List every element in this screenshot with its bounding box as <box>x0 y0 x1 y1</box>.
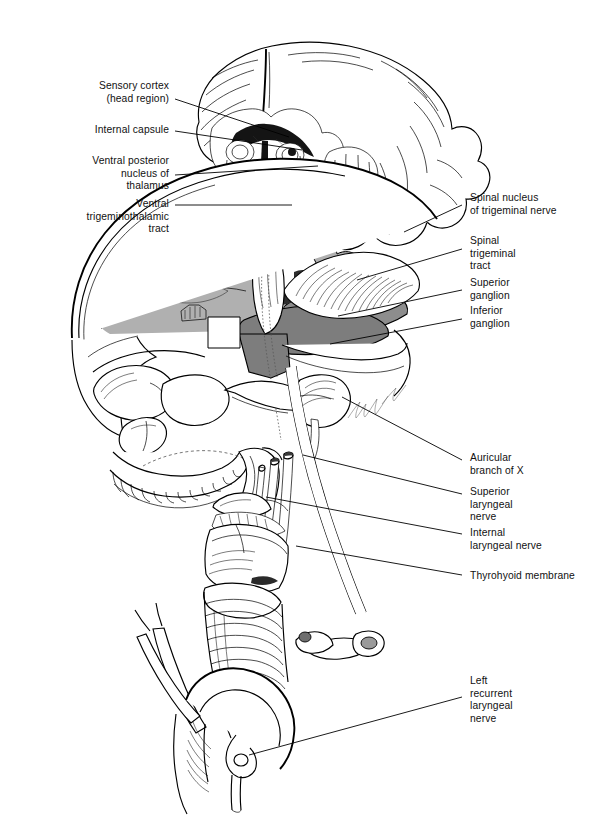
label-internal-capsule: Internal capsule <box>41 124 169 137</box>
occipital-base <box>282 343 407 360</box>
label-auricular-branch-of-x: Auricular branch of X <box>470 452 604 477</box>
recurrent-laryngeal-ascending-2 <box>231 775 232 810</box>
label-thyrohyoid-membrane: Thyrohyoid membrane <box>470 570 606 583</box>
label-spinal-trigeminal-tract: Spinal trigeminal tract <box>470 235 604 273</box>
aorta-descending <box>174 714 187 814</box>
great-vessels-group <box>135 603 384 814</box>
zygomatic-bone <box>161 375 229 426</box>
label-ventral-posterior-nucleus: Ventral posterior nucleus of thalamus <box>41 155 169 193</box>
thalamus-nucleus-left-inner <box>232 145 248 159</box>
vessel-branch-top-1 <box>156 603 162 626</box>
label-ventral-trigeminothalamic: Ventral trigeminothalamic tract <box>21 198 169 236</box>
label-internal-laryngeal-nerve: Internal laryngeal nerve <box>470 527 604 552</box>
ligamentum-arteriosum <box>234 754 248 766</box>
label-sensory-cortex: Sensory cortex (head region) <box>41 80 169 105</box>
vessel-stump-2-lumen <box>299 632 311 642</box>
artist-signature <box>348 385 406 418</box>
label-inferior-ganglion: Inferior ganglion <box>470 305 604 330</box>
occiput-outline <box>394 330 410 396</box>
label-superior-laryngeal-nerve: Superior laryngeal nerve <box>470 486 604 524</box>
trachea-right-wall <box>282 604 288 682</box>
vpm-marker <box>288 148 296 156</box>
label-spinal-nucleus-trigeminal: Spinal nucleus of trigeminal nerve <box>470 192 604 217</box>
maxilla <box>113 452 239 476</box>
label-left-recurrent-laryngeal: Left recurrent laryngeal nerve <box>470 675 604 725</box>
brainstem-column-shade <box>239 334 290 378</box>
nasal-aperture <box>119 418 166 456</box>
vessel-branch-top-2 <box>135 610 150 631</box>
recurrent-laryngeal-ascending <box>240 776 241 810</box>
label-superior-ganglion: Superior ganglion <box>470 277 604 302</box>
fossa-notch <box>208 317 240 348</box>
recurrent-nerve-tip <box>232 810 241 812</box>
vessel-stump-lumen <box>361 637 377 649</box>
